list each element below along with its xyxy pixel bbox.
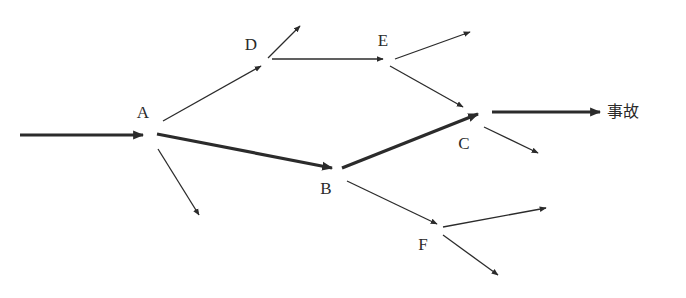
node-label-A: A: [137, 104, 149, 121]
arrow-A-to-D: [163, 66, 261, 121]
edges-group: [20, 26, 600, 275]
outcome-label-accident: 事故: [607, 104, 639, 120]
arrow-E-branch: [395, 32, 470, 59]
node-label-B: B: [320, 180, 331, 197]
arrow-A-to-B: [157, 134, 332, 168]
arrow-E-to-C: [390, 66, 463, 107]
arrow-F-branch-down: [443, 235, 498, 275]
node-label-D: D: [245, 36, 257, 53]
arrow-F-branch-right: [443, 208, 546, 227]
arrow-C-branch: [484, 127, 538, 153]
node-label-C: C: [458, 135, 469, 152]
event-chain-diagram: [0, 0, 686, 298]
node-label-E: E: [378, 32, 388, 49]
arrow-D-branch: [268, 26, 300, 58]
arrow-B-to-F: [347, 181, 437, 224]
node-label-F: F: [418, 236, 427, 253]
arrow-A-branch: [158, 149, 199, 215]
